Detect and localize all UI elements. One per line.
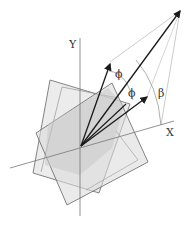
- beta-label: β: [158, 87, 164, 100]
- phi-label-lower: ϕ: [128, 87, 136, 100]
- y-axis-label: Y: [68, 38, 77, 51]
- guide-line-top-to-right: [161, 11, 180, 125]
- rotation-diagram: Y X ϕ ϕ β: [0, 0, 190, 227]
- x-axis-label: X: [166, 126, 174, 139]
- guide-line-left-to-top: [110, 11, 180, 62]
- phi-label-upper: ϕ: [115, 68, 123, 81]
- guide-line-right: [147, 11, 180, 97]
